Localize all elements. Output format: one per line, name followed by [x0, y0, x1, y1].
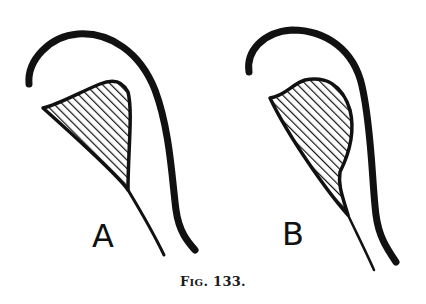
line-drawing — [0, 0, 426, 304]
panel-label-b: B — [282, 218, 304, 250]
panel-label-a: A — [92, 220, 114, 252]
figure-caption: FIG. 133. — [0, 274, 426, 289]
figure-133: A B FIG. 133. — [0, 0, 426, 304]
caption-number: . 133. — [203, 274, 246, 289]
caption-smallcaps: IG — [190, 277, 204, 288]
panel-b-drawing — [249, 30, 396, 270]
caption-prefix: F — [180, 274, 190, 289]
